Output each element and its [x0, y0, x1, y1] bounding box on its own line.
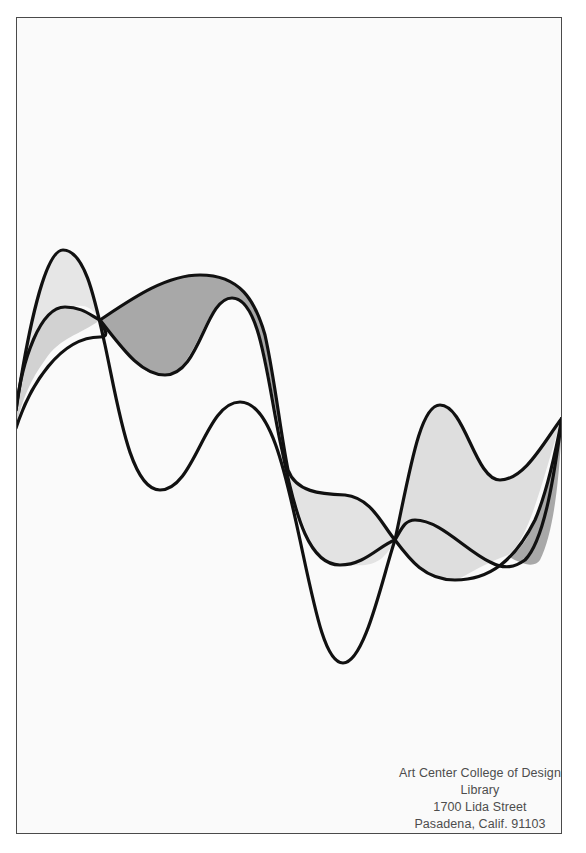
library-stamp: Art Center College of Design Library 170…	[380, 765, 580, 833]
curve-a	[16, 250, 562, 663]
shade-left-medium	[16, 307, 100, 428]
stamp-line-city: Pasadena, Calif. 91103	[380, 816, 580, 833]
stamp-line-library: Library	[380, 782, 580, 799]
stamp-line-street: 1700 Lida Street	[380, 799, 580, 816]
wave-artwork	[0, 0, 586, 853]
shade-middle-light	[282, 440, 395, 565]
stamp-line-institution: Art Center College of Design	[380, 765, 580, 782]
